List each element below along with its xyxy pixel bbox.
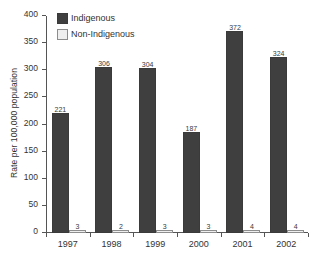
x-axis-tick-mark [177, 233, 178, 237]
x-axis-label: 2002 [264, 239, 308, 249]
x-axis-tick-mark [264, 233, 265, 237]
bar-indigenous: 304 [139, 68, 156, 233]
bar-value-label: 304 [142, 61, 154, 68]
x-axis-label: 2000 [177, 239, 221, 249]
x-axis-tick-mark [46, 233, 47, 237]
bar-value-label: 306 [98, 60, 110, 67]
y-axis-tick: 0 [6, 232, 46, 233]
y-axis-tick-label: 400 [24, 9, 38, 19]
bar-indigenous: 187 [183, 132, 200, 233]
x-axis-tick-mark [133, 233, 134, 237]
bar-non-indigenous: 4 [243, 230, 260, 233]
y-axis-tick-label: 200 [24, 118, 38, 128]
y-axis-tick: 300 [6, 69, 46, 70]
bar-value-label: 2 [119, 223, 123, 230]
y-axis-tick-label: 350 [24, 36, 38, 46]
x-axis-label: 1998 [90, 239, 134, 249]
y-axis-tick: 100 [6, 178, 46, 179]
y-axis-tick-label: 0 [33, 226, 38, 236]
bar-value-label: 3 [206, 223, 210, 230]
bar-chart: Rate per 100,000 population Indigenous N… [0, 0, 315, 262]
bar-indigenous: 324 [270, 57, 287, 233]
y-axis-tick-label: 300 [24, 63, 38, 73]
bar-non-indigenous: 3 [200, 230, 217, 233]
y-axis-tick: 250 [6, 96, 46, 97]
x-axis-label: 1997 [46, 239, 90, 249]
year-group: 3724 [221, 16, 265, 233]
bar-indigenous: 372 [226, 31, 243, 233]
year-group: 3062 [90, 16, 134, 233]
y-axis-tick: 350 [6, 42, 46, 43]
y-axis-tick-label: 100 [24, 172, 38, 182]
year-group: 1873 [177, 16, 221, 233]
bar-non-indigenous: 3 [156, 230, 173, 233]
x-axis-label: 1999 [133, 239, 177, 249]
bar-value-label: 187 [185, 125, 197, 132]
year-group: 3043 [133, 16, 177, 233]
x-axis-tick-mark [308, 233, 309, 237]
y-axis-tick-label: 150 [24, 145, 38, 155]
bar-non-indigenous: 4 [287, 230, 304, 233]
bar-indigenous: 306 [95, 67, 112, 233]
y-axis-tick-label: 250 [24, 90, 38, 100]
y-axis-tick: 200 [6, 124, 46, 125]
x-axis-tick-mark [221, 233, 222, 237]
y-axis-tick: 150 [6, 151, 46, 152]
bar-value-label: 3 [163, 223, 167, 230]
bar-value-label: 3 [75, 223, 79, 230]
bar-value-label: 4 [294, 223, 298, 230]
year-group: 3244 [264, 16, 308, 233]
y-axis-tick-label: 50 [29, 199, 38, 209]
year-group: 2213 [46, 16, 90, 233]
bar-value-label: 324 [273, 50, 285, 57]
y-axis-tick: 400 [6, 15, 46, 16]
bar-indigenous: 221 [52, 113, 69, 233]
bar-value-label: 372 [229, 24, 241, 31]
y-axis-tick: 50 [6, 205, 46, 206]
bar-value-label: 4 [250, 223, 254, 230]
x-axis-label: 2001 [221, 239, 265, 249]
plot-area: 050100150200250300350400 221330623043187… [46, 16, 308, 233]
bar-non-indigenous: 2 [112, 230, 129, 233]
bar-value-label: 221 [54, 106, 66, 113]
x-axis-tick-mark [90, 233, 91, 237]
bar-non-indigenous: 3 [69, 230, 86, 233]
